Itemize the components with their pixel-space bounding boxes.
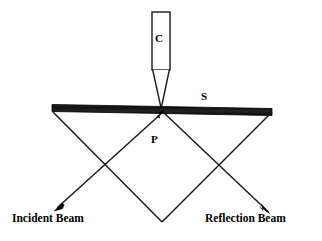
cantilever-label: C bbox=[155, 33, 163, 44]
cantilever-tip bbox=[153, 70, 170, 109]
reflection-beam-ray bbox=[163, 112, 269, 213]
reflection-beam-label: Reflection Beam bbox=[205, 213, 286, 225]
diagram-canvas: C S P Incident Beam Reflection Beam bbox=[0, 0, 322, 241]
incident-beam-label: Incident Beam bbox=[12, 213, 84, 225]
beam-segment-right-up bbox=[162, 112, 272, 222]
incident-beam-arrowhead bbox=[54, 203, 65, 212]
incident-beam-ray bbox=[58, 112, 164, 208]
surface-label: S bbox=[201, 91, 207, 102]
contact-point-label: P bbox=[151, 134, 158, 145]
